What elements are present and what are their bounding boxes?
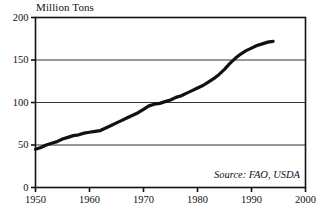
x-axis-tick-label: 1960 <box>67 194 113 205</box>
x-axis-tick-label: 1990 <box>229 194 275 205</box>
source-annotation: Source: FAO, USDA <box>214 169 300 181</box>
y-axis-tick-label: 200 <box>0 12 29 23</box>
gridlines-group <box>36 60 306 145</box>
chart-plot-area <box>0 0 324 216</box>
y-axis-tick-label: 0 <box>0 182 29 193</box>
y-axis-tick-label: 100 <box>0 97 29 108</box>
chart-root: Million Tons 050100150200 19501960197019… <box>0 0 324 216</box>
x-axis-tick-label: 1970 <box>121 194 167 205</box>
y-axis-tick-label: 150 <box>0 54 29 65</box>
x-axis-tick-label: 1950 <box>13 194 59 205</box>
x-axis-tick-label: 1980 <box>175 194 221 205</box>
y-axis-tick-label: 50 <box>0 139 29 150</box>
x-axis-tick-label: 2000 <box>283 194 324 205</box>
data-series-line <box>36 41 274 149</box>
